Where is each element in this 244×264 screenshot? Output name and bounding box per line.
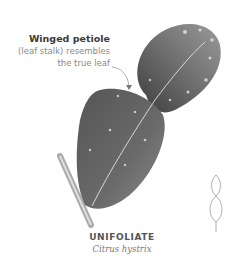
- petiole-annotation: Winged petiole (leaf stalk) resembles th…: [18, 33, 110, 69]
- unifoliate-outline-icon: [210, 175, 222, 232]
- scientific-name: Citrus hystrix: [0, 243, 244, 256]
- true-leaf: [137, 24, 220, 112]
- annotation-line-1: (leaf stalk) resembles: [18, 45, 110, 57]
- leaf-type-label: UNIFOLIATE: [0, 231, 244, 243]
- pointer-arrow-icon: [112, 67, 132, 90]
- annotation-line-2: the true leaf: [18, 57, 110, 69]
- winged-petiole: [77, 89, 165, 209]
- annotation-title: Winged petiole: [18, 33, 110, 45]
- caption: UNIFOLIATE Citrus hystrix: [0, 231, 244, 256]
